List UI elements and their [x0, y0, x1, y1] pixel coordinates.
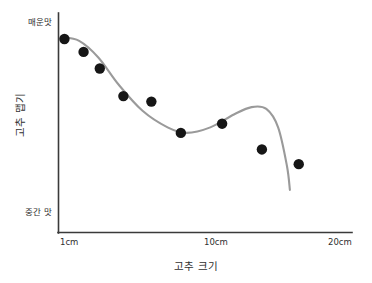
data-point [217, 118, 227, 128]
y-axis-top-label: 매운맛 [28, 17, 52, 27]
x-axis-title: 고추 크기 [174, 260, 217, 272]
x-tick-label-1cm: 1cm [60, 237, 78, 247]
x-tick-label-20cm: 20cm [328, 237, 352, 247]
y-axis-bottom-label: 중간 맛 [25, 207, 52, 217]
chart-container: 매운맛 중간 맛 고추 맵기 1cm 10cm 20cm 고추 크기 [0, 0, 372, 283]
data-point [294, 159, 304, 169]
data-point [78, 47, 88, 57]
data-point [118, 91, 128, 101]
y-axis-title: 고추 맵기 [14, 93, 26, 136]
trend-curve [61, 37, 289, 190]
x-tick-label-10cm: 10cm [204, 237, 228, 247]
data-point [176, 128, 186, 138]
scatter-chart: 매운맛 중간 맛 고추 맵기 1cm 10cm 20cm 고추 크기 [0, 0, 372, 283]
data-point [95, 63, 105, 73]
y-axis-title-group: 고추 맵기 [14, 93, 26, 136]
data-point [257, 144, 267, 154]
data-point [146, 96, 156, 106]
data-point [59, 34, 69, 44]
